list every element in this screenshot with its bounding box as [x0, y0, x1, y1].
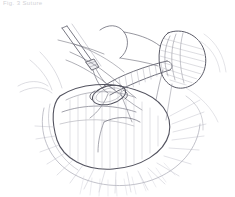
surgical-needle: [62, 24, 101, 70]
ligature-loop: [90, 82, 128, 109]
upper-tracery: [186, 34, 226, 122]
left-vessels: [18, 52, 62, 93]
pericardial-hatching: [35, 100, 206, 193]
figure-canvas: Fig. 3 Suture: [0, 0, 235, 197]
atrium-contour: [58, 26, 160, 66]
atrial-appendage: [156, 31, 206, 120]
ventricle-body: [53, 84, 170, 170]
pericardial-outline: [42, 96, 203, 186]
drawing-ink: [18, 24, 226, 196]
surgical-line-drawing: [0, 0, 235, 197]
